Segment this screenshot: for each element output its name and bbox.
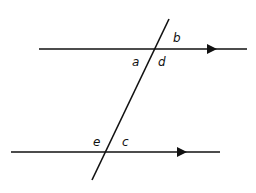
angle-label-e: e [93, 135, 100, 149]
top-arrow-icon [207, 44, 217, 54]
angle-label-d: d [158, 55, 166, 69]
angle-label-b: b [173, 31, 181, 45]
transversal-line [92, 19, 169, 180]
angle-label-c: c [122, 135, 129, 149]
parallel-lines-diagram: b a d e c [0, 0, 256, 193]
angle-label-a: a [132, 55, 139, 69]
bottom-arrow-icon [177, 147, 187, 157]
